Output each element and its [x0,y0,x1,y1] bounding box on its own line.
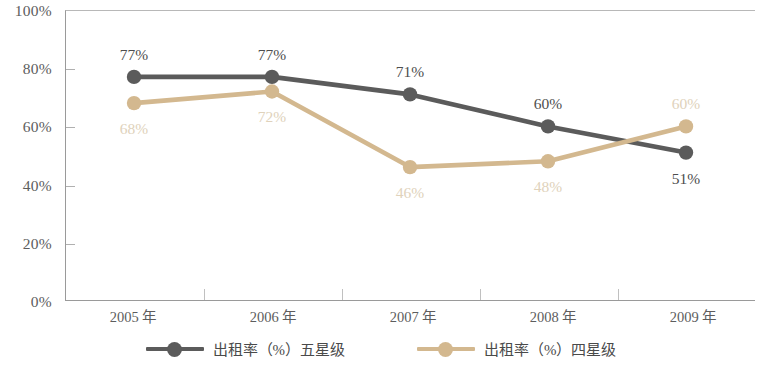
data-label-s1-3: 60% [513,95,583,113]
x-axis-label-2005: 2005 年 [68,305,198,326]
y-tick-80 [66,69,75,70]
y-axis-label-20: 20% [0,235,52,253]
data-label-s2-2: 46% [375,184,445,202]
data-label-s1-4: 51% [651,170,721,188]
x-separator-1 [204,289,205,300]
data-label-s2-1: 72% [237,108,307,126]
y-axis-label-40: 40% [0,177,52,195]
legend-marker-4star [417,341,475,357]
y-tick-20 [66,244,75,245]
y-axis-label-60: 60% [0,118,52,136]
legend-item-5star[interactable]: 出租率（%）五星级 [146,338,346,359]
x-separator-4 [618,289,619,300]
x-axis-label-2006: 2006 年 [208,305,338,326]
x-axis-label-2007: 2007 年 [348,305,478,326]
y-tick-40 [66,186,75,187]
x-axis-label-2008: 2008 年 [488,305,618,326]
y-tick-60 [66,127,75,128]
data-label-s1-2: 71% [375,63,445,81]
x-separator-3 [480,289,481,300]
legend-marker-5star [146,341,204,357]
data-label-s2-0: 68% [99,120,169,138]
y-axis-label-0: 0% [0,293,52,311]
data-label-s2-3: 48% [513,178,583,196]
legend-item-4star[interactable]: 出租率（%）四星级 [417,338,617,359]
y-axis-label-100: 100% [0,2,52,20]
x-axis-label-2009: 2009 年 [628,305,758,326]
x-separator-2 [342,289,343,300]
legend-label-5star: 出租率（%）五星级 [213,338,346,359]
data-label-s1-1: 77% [237,46,307,64]
legend-label-4star: 出租率（%）四星级 [484,338,617,359]
data-label-s1-0: 77% [99,46,169,64]
data-label-s2-4: 60% [651,95,721,113]
y-axis-label-80: 80% [0,60,52,78]
line-chart: 100% 80% 60% 40% 20% 0% 2005 年 2006 年 20… [0,0,762,371]
chart-legend: 出租率（%）五星级 出租率（%）四星级 [0,338,762,359]
